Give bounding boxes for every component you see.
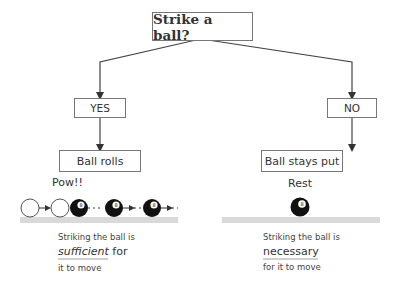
pow-label: Pow!! [52, 176, 83, 189]
connector-root-yes [100, 40, 196, 96]
caption-left-line3: it to move [58, 263, 101, 273]
outcome-stays-box: Ball stays put [261, 150, 343, 172]
caption-right-keyword: necessary [263, 245, 319, 258]
caption-right-line2: necessary [263, 245, 319, 258]
ball-sequence: 8 8 8 [21, 199, 178, 217]
outcome-rolls-box: Ball rolls [59, 150, 141, 172]
eight-ball-icon: 8 [105, 199, 123, 217]
decision-yes-box: YES [74, 98, 126, 118]
connector-root-no [208, 40, 352, 96]
decision-yes-label: YES [90, 102, 110, 114]
caption-right-line3: for it to move [263, 262, 321, 272]
svg-text:8: 8 [114, 202, 117, 208]
decision-no-box: NO [327, 98, 377, 118]
svg-text:8: 8 [79, 202, 82, 208]
diagram-canvas: 8 8 8 8 [0, 0, 395, 286]
cue-ball-icon [21, 199, 39, 217]
caption-left-line2: sufficient for [58, 245, 127, 258]
decision-no-label: NO [344, 102, 360, 114]
svg-text:8: 8 [152, 202, 155, 208]
cue-ball-icon [51, 199, 69, 217]
outcome-rolls-label: Ball rolls [77, 155, 124, 168]
svg-text:8: 8 [300, 201, 303, 207]
caption-left-keyword: sufficient [58, 245, 109, 258]
caption-right-line1: Striking the ball is [263, 232, 340, 242]
root-question-label: Strike a ball? [153, 11, 252, 43]
caption-left-after: for [109, 245, 128, 258]
eight-ball-icon: 8 [143, 199, 161, 217]
root-question-box: Strike a ball? [152, 12, 253, 41]
floor-left [20, 217, 178, 223]
rest-label: Rest [288, 177, 312, 190]
outcome-stays-label: Ball stays put [265, 155, 340, 168]
floor-right [222, 217, 380, 223]
eight-ball-icon: 8 [70, 199, 88, 217]
eight-ball-icon: 8 [291, 198, 310, 217]
caption-left-line1: Striking the ball is [58, 232, 135, 242]
